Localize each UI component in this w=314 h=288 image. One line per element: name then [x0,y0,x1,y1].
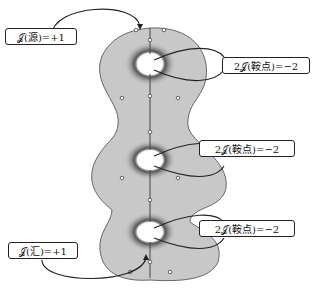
saddle-index-label-top: 2𝒥(鞍点)=−2 [222,57,310,74]
sink-index-label: 𝒥(汇)=+1 [8,242,78,259]
saddle-index-label-bottom: 2𝒥(鞍点)=−2 [199,220,295,237]
saddle-index-label-middle: 2𝒥(鞍点)=−2 [199,140,295,157]
source-index-label: 𝒥(源)=+1 [5,28,77,45]
